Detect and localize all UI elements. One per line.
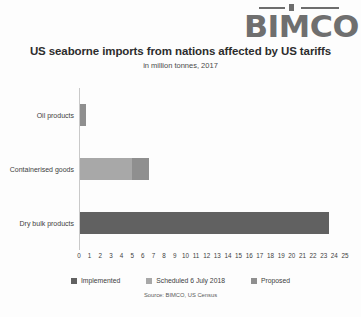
legend-item[interactable]: Proposed [251, 277, 290, 284]
x-tick-label: 25 [341, 252, 348, 259]
bimco-logo: BIMCO [245, 4, 353, 41]
x-tick-label: 8 [162, 252, 166, 259]
x-tick-label: 13 [214, 252, 221, 259]
x-tick-label: 19 [278, 252, 285, 259]
bar-segment [80, 212, 329, 234]
bar-row: Containerised goods [79, 158, 345, 180]
x-tick-label: 1 [88, 252, 92, 259]
x-tick-label: 21 [299, 252, 306, 259]
category-label: Dry bulk products [20, 220, 74, 227]
x-tick-label: 4 [120, 252, 124, 259]
x-tick-label: 0 [77, 252, 81, 259]
x-tick-label: 14 [224, 252, 231, 259]
chart-page: BIMCO US seaborne imports from nations a… [0, 0, 361, 317]
x-tick-label: 5 [130, 252, 134, 259]
logo-wordmark: BIMCO [244, 11, 354, 41]
legend-item[interactable]: Implemented [71, 277, 120, 284]
legend-swatch-icon [71, 278, 77, 284]
bar-stack [80, 158, 149, 180]
plot-area: Oil productsContainerised goodsDry bulk … [79, 88, 345, 250]
bar-stack [80, 212, 329, 234]
x-tick-label: 6 [141, 252, 145, 259]
bar-segment [80, 104, 86, 126]
source-note: Source: BIMCO, US Census [0, 292, 361, 298]
legend-label: Implemented [81, 277, 120, 284]
legend-label: Proposed [261, 277, 290, 284]
x-tick-label: 17 [256, 252, 263, 259]
x-tick-label: 2 [99, 252, 103, 259]
x-tick-label: 20 [288, 252, 295, 259]
bar-segment [132, 158, 149, 180]
legend-item[interactable]: Scheduled 6 July 2018 [146, 277, 225, 284]
x-tick-label: 11 [193, 252, 200, 259]
chart-legend: ImplementedScheduled 6 July 2018Proposed [0, 277, 361, 284]
x-tick-label: 7 [152, 252, 156, 259]
x-tick-label: 12 [203, 252, 210, 259]
bar-row: Oil products [79, 104, 345, 126]
legend-swatch-icon [251, 278, 257, 284]
x-tick-label: 9 [173, 252, 177, 259]
x-tick-label: 18 [267, 252, 274, 259]
x-tick-label: 3 [109, 252, 113, 259]
x-tick-label: 16 [246, 252, 253, 259]
x-tick-label: 15 [235, 252, 242, 259]
bar-row: Dry bulk products [79, 212, 345, 234]
x-tick-label: 24 [331, 252, 338, 259]
category-label: Oil products [37, 112, 74, 119]
category-label: Containerised goods [10, 166, 74, 173]
bar-stack [80, 104, 86, 126]
chart-title: US seaborne imports from nations affecte… [0, 45, 361, 57]
legend-label: Scheduled 6 July 2018 [156, 277, 225, 284]
x-tick-label: 23 [320, 252, 327, 259]
bar-segment [80, 158, 132, 180]
x-tick-label: 22 [310, 252, 317, 259]
chart-subtitle: in million tonnes, 2017 [0, 61, 361, 70]
x-tick-label: 10 [182, 252, 189, 259]
legend-swatch-icon [146, 278, 152, 284]
x-axis-ticks: 0123456789101112131415161718192021222324… [79, 252, 345, 264]
